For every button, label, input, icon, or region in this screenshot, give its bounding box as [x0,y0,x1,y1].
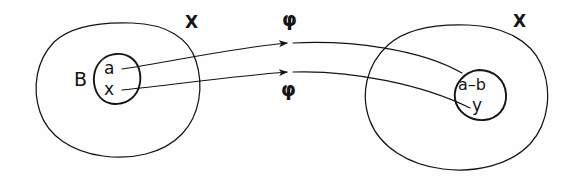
right-element-a-minus-b: a–b [458,77,486,93]
set-mapping-diagram: X X B a x a–b y φ φ [0,0,583,189]
right-outer-set-label: X [513,13,526,30]
left-element-a: a [104,60,114,77]
left-element-x: x [104,81,114,98]
bottom-mapping-arrow-tail [293,72,470,108]
top-mapping-arrow [122,43,287,69]
top-arrow-label-phi: φ [282,10,297,29]
bottom-arrow-label-phi: φ [281,80,296,99]
left-outer-set-label: X [185,14,198,31]
right-outer-set-boundary [365,25,547,170]
left-inner-set-label: B [74,70,87,89]
left-inner-set-boundary [94,54,140,104]
left-outer-set-boundary [36,23,200,157]
right-element-y: y [472,97,482,114]
bottom-mapping-arrow [122,72,287,90]
